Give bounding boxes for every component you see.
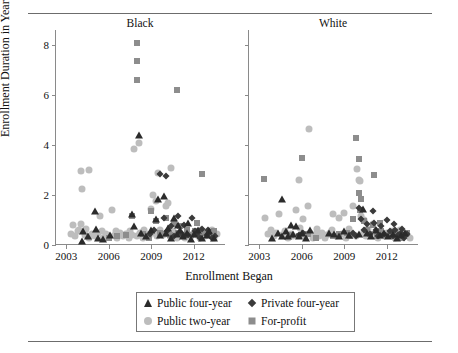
marker-triangle [147,227,155,234]
marker-triangle [174,222,182,229]
x-tick-label: 2012 [376,250,398,262]
marker-circle [144,317,152,325]
y-tick-label: 2 [44,189,50,201]
marker-circle [314,225,321,232]
legend-marker [143,299,152,308]
legend-item[interactable]: Private four-year [247,294,362,312]
marker-square [313,235,319,241]
legend-marker [247,299,256,308]
legend-label: Public two-year [157,315,230,327]
marker-square [299,155,305,161]
panel-title-black: Black [55,17,225,29]
marker-triangle [194,227,202,234]
y-tick-label: 4 [44,139,50,151]
marker-square [356,190,362,196]
legend-marker [143,317,152,326]
marker-square [353,135,359,141]
legend: Public four-yearPrivate four-yearPublic … [136,292,355,332]
marker-circle [304,203,311,210]
marker-square [148,208,154,214]
legend-item[interactable]: Public two-year [143,312,247,330]
x-tick-label: 2006 [291,250,313,262]
y-tick-label: 6 [44,89,50,101]
marker-triangle [401,229,409,236]
legend-item[interactable]: Public four-year [143,294,247,312]
marker-circle [135,139,142,146]
x-tick [109,245,110,249]
y-tick-label: 0 [44,239,50,251]
marker-triangle [306,227,314,234]
marker-square [199,171,205,177]
marker-triangle [142,233,150,240]
plot-area-black [55,30,225,245]
marker-triangle [325,229,333,236]
legend-item[interactable]: For-profit [247,312,362,330]
top-rule [28,13,432,14]
marker-square [114,233,120,239]
marker-square [123,232,129,238]
x-tick [344,245,345,249]
y-axis-title: Enrollment Duration in Years [0,0,13,137]
marker-circle [296,177,303,184]
marker-diamond [390,220,397,227]
marker-triangle [278,195,286,202]
marker-triangle [170,214,178,221]
marker-triangle [359,205,367,212]
marker-triangle [302,234,310,241]
panel-title-white: White [248,17,418,29]
plot-area-white [248,30,418,245]
marker-square [356,156,362,162]
marker-triangle [144,299,152,307]
marker-triangle [268,234,276,241]
marker-circle [262,214,269,221]
x-tick-label: 2009 [140,250,162,262]
x-tick-label: 2009 [333,250,355,262]
marker-circle [168,164,175,171]
legend-label: Public four-year [157,297,232,309]
x-tick [259,245,260,249]
marker-triangle [345,232,353,239]
marker-triangle [135,132,143,139]
legend-label: For-profit [261,315,306,327]
marker-circle [86,167,93,174]
x-axis-title: Enrollment Began [0,269,458,284]
marker-square [134,58,140,64]
marker-circle [354,165,361,172]
marker-triangle [128,210,136,217]
x-tick [387,245,388,249]
marker-circle [300,215,307,222]
marker-circle [356,178,363,185]
marker-square [194,220,200,226]
legend-marker [247,317,256,326]
marker-square [174,87,180,93]
x-tick-label: 2003 [55,250,77,262]
marker-triangle [154,195,162,202]
marker-triangle [91,208,99,215]
x-tick [302,245,303,249]
x-tick [66,245,67,249]
bottom-rule [28,341,432,342]
marker-square [350,216,356,222]
x-tick [194,245,195,249]
marker-square [134,77,140,83]
marker-circle [341,209,348,216]
marker-circle [77,168,84,175]
marker-triangle [367,233,375,240]
marker-circle [276,210,283,217]
marker-circle [165,199,172,206]
marker-diamond [369,208,376,215]
x-tick-label: 2006 [98,250,120,262]
marker-square [358,196,364,202]
marker-square [134,40,140,46]
marker-triangle [184,219,192,226]
marker-diamond [383,216,390,223]
marker-triangle [210,234,218,241]
marker-square [248,318,255,325]
marker-circle [293,207,300,214]
x-tick [151,245,152,249]
marker-diamond [247,299,255,307]
panel-white: White 2003200620092012 [248,30,418,245]
marker-triangle [84,233,92,240]
y-tick [245,245,249,246]
marker-circle [78,185,85,192]
